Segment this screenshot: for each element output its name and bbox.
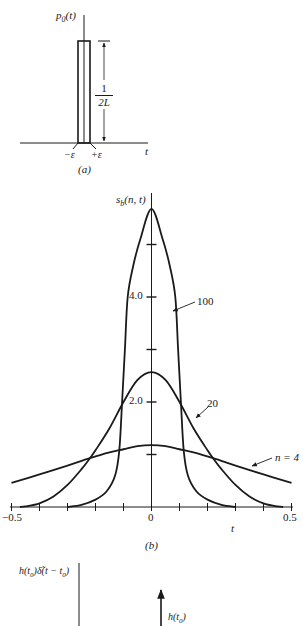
panel-a-y-label: p0(t): [56, 10, 76, 24]
curve-label-n4: n = 4: [275, 452, 299, 463]
y-tick-label-4: 4.0: [129, 290, 143, 301]
panel-b-graphic: [10, 193, 293, 511]
y-label-argument: (t): [66, 9, 76, 21]
fraction-denominator: 2L: [95, 96, 113, 108]
panel-a-x-label: t: [145, 146, 148, 157]
impulse-label: h(t0): [168, 612, 186, 625]
panel-c-graphic: [79, 563, 161, 626]
label-part: h(t: [168, 611, 179, 622]
fraction-numerator: 1: [95, 83, 113, 96]
panel-b-x-label: t: [231, 523, 234, 534]
panel-c-y-label: h(t0)δ̃(t − t0): [19, 566, 69, 579]
minus-epsilon-label: −ε: [64, 150, 75, 160]
panel-b-caption: (b): [145, 540, 158, 551]
figure-canvas: [0, 0, 303, 626]
curve-label-arrows: [173, 302, 272, 466]
curve-label-100: 100: [197, 296, 214, 307]
label-part: )δ̃(t − t: [34, 565, 63, 576]
curve-label-arrow: [252, 458, 272, 466]
label-part: ): [66, 565, 69, 576]
x-tick-label-zero: 0: [148, 512, 154, 523]
height-fraction: 1 2L: [95, 82, 113, 109]
x-tick-label-half: 0.5: [283, 512, 297, 523]
y-tick-label-2: 2.0: [129, 395, 143, 406]
panel-b-y-label: sb(n, t): [116, 194, 146, 208]
panel-a-caption: (a): [78, 164, 91, 175]
label-part: h(t: [19, 565, 30, 576]
panel-a-graphic: [20, 15, 148, 149]
label-part: ): [183, 611, 186, 622]
curve-label-20: 20: [207, 398, 218, 409]
y-label-argument: (n, t): [124, 193, 145, 205]
x-tick-label-neg-half: −0.5: [2, 512, 22, 523]
plus-epsilon-label: +ε: [91, 150, 102, 160]
